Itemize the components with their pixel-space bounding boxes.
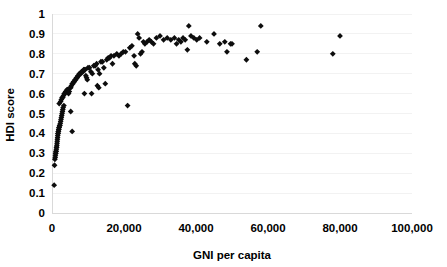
data-point-marker — [89, 91, 95, 97]
data-point-marker — [330, 51, 336, 57]
y-tick-label: 0 — [39, 207, 45, 219]
data-point-marker — [217, 41, 223, 47]
x-tick-label: 60,000 — [250, 222, 285, 234]
data-point-marker — [125, 103, 131, 109]
x-axis-title: GNI per capita — [193, 249, 272, 261]
data-point-marker — [101, 65, 107, 71]
data-point-marker — [204, 39, 210, 45]
data-point-marker — [82, 91, 88, 97]
data-point-marker — [222, 39, 228, 45]
y-tick-label: 0.1 — [29, 187, 46, 199]
x-tick-label: 20,000 — [106, 222, 141, 234]
y-tick-label: 1 — [39, 8, 46, 20]
y-tick-label: 0.8 — [29, 48, 46, 60]
data-point-marker — [184, 47, 190, 53]
y-tick-label: 0.7 — [29, 68, 45, 80]
y-tick-labels: 00.10.20.30.40.50.60.70.80.91 — [29, 8, 46, 219]
x-tick-label: 40,000 — [178, 222, 213, 234]
data-point-marker — [258, 23, 264, 29]
x-tick-labels: 020,00040,00060,00080,000100,000 — [49, 222, 433, 234]
x-tick-label: 100,000 — [391, 222, 433, 234]
y-tick-label: 0.9 — [29, 28, 45, 40]
x-tick-label: 0 — [49, 222, 55, 234]
y-tick-label: 0.5 — [29, 108, 46, 120]
data-point-marker — [211, 31, 217, 37]
y-tick-label: 0.6 — [29, 88, 45, 100]
y-tick-label: 0.3 — [29, 147, 45, 159]
y-tick-label: 0.4 — [29, 127, 46, 139]
y-tick-label: 0.2 — [29, 167, 45, 179]
data-point-marker — [110, 61, 116, 67]
data-point-marker — [102, 81, 108, 87]
data-point-marker — [244, 57, 250, 63]
chart-canvas: 00.10.20.30.40.50.60.70.80.91 020,00040,… — [0, 0, 447, 267]
scatter-chart-figure: 00.10.20.30.40.50.60.70.80.91 020,00040,… — [0, 0, 447, 267]
data-points — [51, 23, 343, 188]
data-point-marker — [186, 23, 192, 29]
y-axis-title: HDI score — [4, 88, 16, 142]
x-tick-label: 80,000 — [322, 222, 357, 234]
